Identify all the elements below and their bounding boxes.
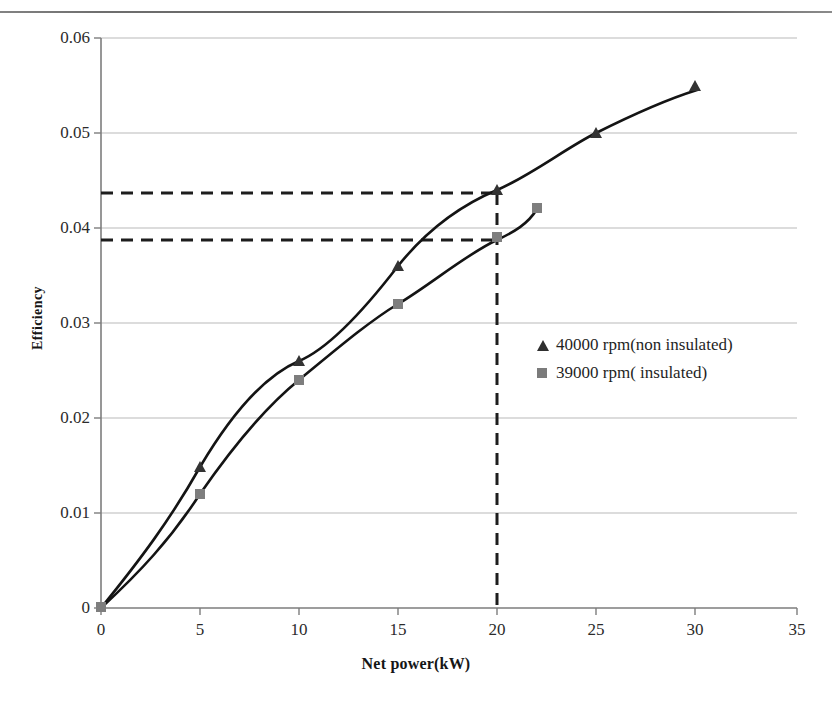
y-axis-title: Efficiency [30,258,46,378]
x-tick-label: 20 [477,620,517,640]
x-axis-title: Net power(kW) [0,655,832,673]
data-point [194,461,206,472]
square-marker-icon [536,366,550,380]
chart-legend: 40000 rpm(non insulated) 39000 rpm( insu… [536,331,796,387]
x-tick-label: 15 [378,620,418,640]
chart-figure: 0.06 0.05 0.04 0.03 0.02 0.01 0 0 5 10 1… [0,0,832,703]
y-tick-label: 0.06 [32,28,90,48]
legend-item-label: 39000 rpm( insulated) [556,363,707,383]
y-tick-label: 0 [32,598,90,618]
data-point [532,203,542,213]
gridlines [101,38,797,513]
series-markers-39000rpm [96,203,542,612]
x-tick-label: 25 [576,620,616,640]
x-tick-label: 0 [81,620,121,640]
data-point [393,299,403,309]
x-tick-marks [101,608,797,615]
x-tick-label: 5 [180,620,220,640]
legend-item-label: 40000 rpm(non insulated) [556,335,733,355]
legend-item: 40000 rpm(non insulated) [536,331,796,359]
legend-item: 39000 rpm( insulated) [536,359,796,387]
x-tick-label: 10 [279,620,319,640]
data-point [96,602,106,612]
y-tick-label: 0.02 [32,408,90,428]
y-tick-label: 0.01 [32,503,90,523]
y-tick-marks [94,38,101,608]
data-point [294,375,304,385]
x-tick-label: 35 [777,620,817,640]
data-point [195,489,205,499]
data-point [689,80,701,91]
y-tick-label: 0.04 [32,218,90,238]
triangle-marker-icon [536,338,550,352]
x-tick-label: 30 [675,620,715,640]
series-curve-39000rpm [101,209,537,608]
data-point [492,232,502,242]
y-tick-label: 0.05 [32,123,90,143]
